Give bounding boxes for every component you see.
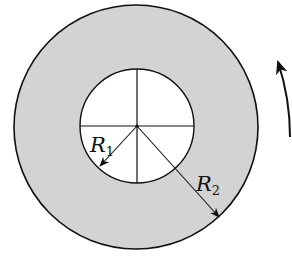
annulus-diagram: R1 R2 <box>0 0 292 261</box>
rotation-arrow-icon <box>278 62 290 137</box>
